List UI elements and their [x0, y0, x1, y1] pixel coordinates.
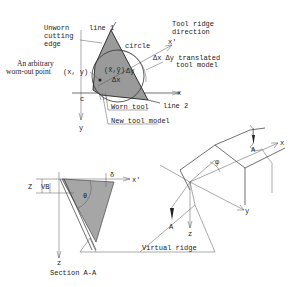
virtual-ridge-leader: [195, 205, 215, 252]
new-tool-label: New tool model: [111, 117, 170, 125]
virtual-ridge-label: Virtual ridge: [142, 244, 197, 252]
origin-label: c: [80, 95, 84, 103]
tool-ridge-label-2: direction: [172, 28, 210, 36]
section-arrow-top-icon: [252, 135, 255, 144]
iso-y-axis: [190, 182, 244, 210]
iso-y-label: y: [245, 207, 249, 215]
section-arrow-bottom-icon: [170, 208, 174, 220]
ray: [170, 182, 190, 210]
iso-x-label: x: [280, 139, 284, 147]
top-view: Unworn cutting edge line 1 circle Tool r…: [6, 20, 220, 132]
translated-label-2: tool model: [176, 61, 218, 69]
translated-leader: [146, 62, 163, 70]
worn-tool-label: Worn tool: [111, 103, 149, 111]
phi-label: φ: [215, 158, 220, 166]
iso-z-label: z: [188, 230, 192, 238]
section-x-prime-label: x': [132, 176, 140, 184]
line2-label: line 2: [163, 102, 188, 110]
circle-label: circle: [125, 42, 150, 50]
ray: [190, 182, 195, 205]
ray: [160, 165, 190, 182]
delta-x-label: Δx: [112, 76, 120, 84]
iso-x-axis: [190, 143, 278, 182]
arbitrary-label-2: worn-out point: [6, 67, 52, 76]
center-label: (x̃,ỹ): [104, 66, 125, 74]
section-z-label: z: [57, 259, 61, 267]
line1-label: line 1: [89, 24, 114, 32]
delta-y-label: Δy: [126, 67, 134, 75]
tool-ridge-label-1: Tool ridge: [172, 20, 214, 28]
ray: [190, 160, 215, 182]
section-view: Z VB δ x' θ z Section A-A: [28, 171, 215, 277]
vb-label: VB: [41, 183, 49, 191]
worn-point-marker: [99, 79, 102, 82]
y-axis-label: y: [79, 124, 83, 132]
unworn-label-3: edge: [44, 40, 61, 48]
theta-label: θ: [83, 192, 87, 200]
delta-label: δ: [110, 171, 114, 179]
unworn-edge-leader: [80, 40, 102, 43]
line2-extension: [148, 100, 160, 103]
a-bottom-label: A: [169, 223, 174, 231]
x-prime-label: x': [168, 38, 176, 46]
block-top-right: [215, 145, 285, 168]
block-left-edge: [180, 170, 190, 190]
unworn-label-2: cutting: [44, 32, 73, 40]
worn-tool-shape: [93, 30, 148, 100]
unworn-label-1: Unworn: [44, 24, 69, 32]
x-axis-label: x: [177, 89, 181, 97]
a-top-label: A: [251, 146, 256, 154]
z-left-label: Z: [28, 183, 32, 191]
diagram-canvas: Unworn cutting edge line 1 circle Tool r…: [0, 0, 292, 287]
xy-label: (x, y): [63, 68, 88, 76]
iso-view: A A x y z φ Virtual ridge: [140, 125, 285, 252]
section-title: Section A-A: [50, 269, 97, 277]
